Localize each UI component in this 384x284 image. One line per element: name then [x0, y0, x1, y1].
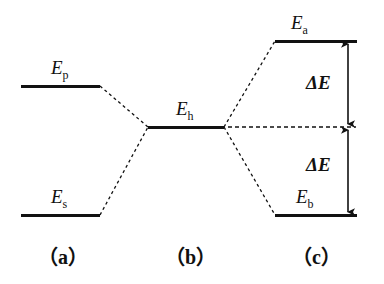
- label-es-main: E: [51, 186, 63, 207]
- label-ep: Ep: [51, 58, 69, 81]
- level-bar-ep: [21, 85, 100, 88]
- label-eb-main: E: [296, 186, 308, 207]
- energy-level-diagram: Ep Es Eh Ea Eb ΔE ΔE （a） （b） （c）: [0, 0, 384, 284]
- caption-panel-b: （b）: [165, 247, 216, 267]
- level-bar-eh: [148, 126, 224, 129]
- label-delta-e-upper: ΔE: [306, 73, 331, 92]
- label-eh-main: E: [176, 98, 188, 119]
- connector-eh-eb: [224, 127, 275, 215]
- connector-es-eh: [100, 127, 148, 215]
- label-ea: Ea: [291, 13, 308, 36]
- connector-ep-eh: [100, 86, 148, 127]
- label-ep-main: E: [51, 57, 63, 78]
- label-ea-sub: a: [303, 23, 308, 37]
- label-ep-sub: p: [63, 68, 69, 82]
- label-es: Es: [51, 187, 67, 210]
- level-bar-es: [21, 214, 100, 217]
- label-delta-e-lower: ΔE: [306, 155, 331, 174]
- label-eb: Eb: [296, 187, 314, 210]
- level-bar-ea: [275, 40, 357, 43]
- label-ea-main: E: [291, 12, 303, 33]
- caption-panel-a: （a）: [38, 247, 88, 267]
- level-bar-eb: [275, 214, 357, 217]
- label-eh-sub: h: [188, 109, 194, 123]
- label-es-sub: s: [63, 197, 68, 211]
- connector-eh-ea: [224, 41, 275, 127]
- label-eb-sub: b: [308, 197, 314, 211]
- caption-panel-c: （c）: [292, 247, 341, 267]
- label-eh: Eh: [176, 99, 194, 122]
